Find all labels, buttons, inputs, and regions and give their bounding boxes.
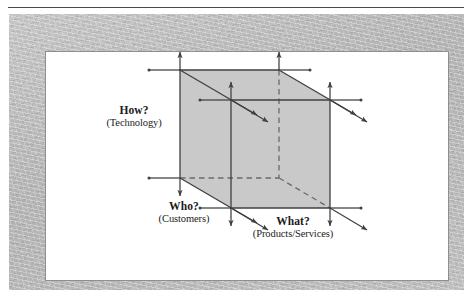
label-how-title: How?: [88, 104, 180, 117]
axis-cross-front-top-right: [330, 82, 367, 122]
page-header-ghost-text: [170, 0, 290, 7]
label-what-title: What?: [232, 215, 354, 228]
label-how-subtitle: (Technology): [88, 117, 180, 129]
label-how: How? (Technology): [88, 104, 180, 129]
figure-root: How? (Technology) Who? (Customers) What?…: [0, 0, 472, 304]
label-what: What? (Products/Services): [232, 215, 354, 240]
page-top-rule: [8, 7, 464, 8]
label-what-subtitle: (Products/Services): [232, 228, 354, 240]
label-who-title: Who?: [138, 200, 230, 213]
label-who: Who? (Customers): [138, 200, 230, 225]
cube-fill: [180, 70, 330, 208]
label-who-subtitle: (Customers): [138, 213, 230, 225]
